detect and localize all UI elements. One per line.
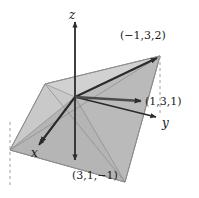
point-label-a: (−1,3,2) xyxy=(120,30,166,41)
plane-group xyxy=(10,56,160,182)
axis-label-y: y xyxy=(162,117,169,129)
axis-label-z: z xyxy=(69,9,75,21)
axis-label-x: x xyxy=(31,147,38,159)
point-label-b: (1,3,1) xyxy=(145,96,182,107)
vector-plane-figure: (−1,3,2) (1,3,1) (3,1,−1) z y x xyxy=(0,0,199,198)
point-label-c: (3,1,−1) xyxy=(72,170,118,181)
